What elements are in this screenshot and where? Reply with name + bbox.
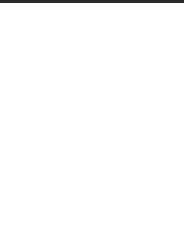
fretboard-diagram: [0, 0, 184, 238]
